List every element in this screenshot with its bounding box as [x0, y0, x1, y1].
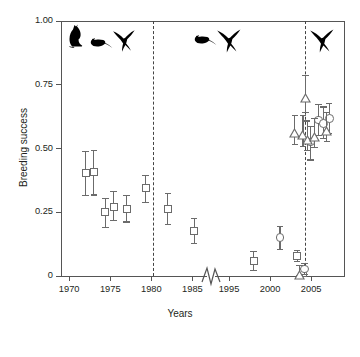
y-tick: [56, 212, 61, 213]
error-cap-upper: [110, 191, 116, 192]
y-tick: [56, 148, 61, 149]
error-cap-upper: [296, 265, 302, 266]
x-tick: [311, 276, 312, 281]
y-tick-label: 0.25: [35, 206, 53, 216]
error-cap-upper: [302, 75, 308, 76]
error-cap-lower: [324, 141, 330, 142]
x-tick: [192, 276, 193, 281]
x-tick-label: 2005: [289, 284, 333, 294]
error-cap-lower: [82, 195, 88, 196]
x-tick: [270, 276, 271, 281]
marker-open-circle: [276, 233, 285, 242]
error-cap-lower: [142, 202, 148, 203]
x-tick-label: 1980: [129, 284, 173, 294]
marker-open-square: [293, 252, 301, 260]
bird-silhouette-late: [309, 27, 337, 55]
y-tick-label: 0: [48, 270, 53, 280]
error-cap-upper: [294, 250, 300, 251]
error-cap-upper: [250, 251, 256, 252]
y-tick: [56, 21, 61, 22]
x-tick-label: 1970: [47, 284, 91, 294]
error-cap-lower: [123, 221, 129, 222]
x-tick-label: 1975: [88, 284, 132, 294]
x-tick: [151, 276, 152, 281]
x-tick: [110, 276, 111, 281]
error-cap-lower: [277, 249, 283, 250]
error-cap-lower: [110, 220, 116, 221]
error-cap-lower: [91, 194, 97, 195]
cat-eradication-line: [153, 21, 154, 276]
error-cap-lower: [311, 147, 317, 148]
x-axis-line-left: [61, 276, 207, 277]
plot-frame-top: [61, 21, 344, 22]
rat-silhouette-mid: [194, 33, 218, 46]
marker-open-square: [164, 205, 172, 213]
y-tick: [56, 84, 61, 85]
error-cap-upper: [326, 103, 332, 104]
x-tick: [69, 276, 70, 281]
error-cap-lower: [102, 227, 108, 228]
y-tick-label: 0.50: [35, 143, 53, 153]
bird-silhouette-mid: [216, 27, 244, 55]
error-cap-upper: [277, 226, 283, 227]
breeding-success-chart: 00.250.500.751.0019701975198019851995200…: [0, 0, 360, 357]
marker-open-square: [82, 169, 90, 177]
x-tick-label: 2000: [248, 284, 292, 294]
error-cap-upper: [165, 193, 171, 194]
marker-open-square: [101, 208, 109, 216]
marker-open-square: [90, 168, 98, 176]
x-axis-title: Years: [0, 308, 360, 319]
error-cap-upper: [82, 151, 88, 152]
error-cap-upper: [315, 104, 321, 105]
marker-open-square: [190, 227, 198, 235]
y-tick: [56, 276, 61, 277]
error-cap-upper: [123, 195, 129, 196]
error-cap-upper: [292, 115, 298, 116]
marker-open-square: [250, 257, 258, 265]
error-cap-lower: [165, 224, 171, 225]
error-cap-upper: [304, 120, 310, 121]
error-cap-upper: [142, 175, 148, 176]
error-cap-upper: [311, 118, 317, 119]
error-cap-lower: [302, 112, 308, 113]
error-cap-upper: [320, 106, 326, 107]
error-cap-upper: [102, 198, 108, 199]
error-cap-upper: [324, 112, 330, 113]
error-cap-upper: [191, 218, 197, 219]
bird-silhouette-early: [112, 28, 138, 54]
y-tick-label: 1.00: [35, 15, 53, 25]
y-tick-label: 0.75: [35, 79, 53, 89]
error-cap-lower: [250, 270, 256, 271]
marker-open-square: [110, 203, 118, 211]
error-cap-lower: [191, 243, 197, 244]
error-cap-lower: [292, 144, 298, 145]
x-axis-line-right: [215, 276, 344, 277]
rat-silhouette-early: [90, 36, 114, 49]
plot-frame-right: [344, 21, 345, 277]
x-tick-label: 1995: [207, 284, 251, 294]
marker-open-square: [142, 184, 150, 192]
error-cap-lower: [300, 146, 306, 147]
y-axis-title: Breeding success: [18, 108, 29, 187]
error-cap-lower: [304, 150, 310, 151]
error-cap-upper: [91, 150, 97, 151]
cat-silhouette: [68, 24, 85, 49]
error-cap-lower: [294, 261, 300, 262]
x-tick: [229, 276, 230, 281]
error-cap-lower: [307, 159, 313, 160]
error-cap-upper: [300, 115, 306, 116]
marker-open-square: [123, 205, 131, 213]
